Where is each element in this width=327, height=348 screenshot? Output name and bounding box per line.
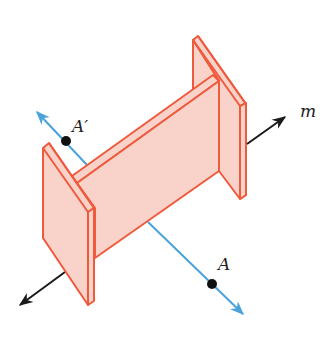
label-m: m (300, 103, 316, 120)
axis-m-front-segment (20, 272, 65, 305)
diagram-canvas: A′ A m (0, 0, 327, 348)
axis-m-back-segment (247, 117, 285, 144)
i-beam-diagram (0, 0, 327, 348)
label-a: A (218, 256, 230, 273)
label-a-prime: A′ (72, 118, 88, 135)
point-a (207, 279, 217, 289)
point-a-prime (61, 136, 71, 146)
